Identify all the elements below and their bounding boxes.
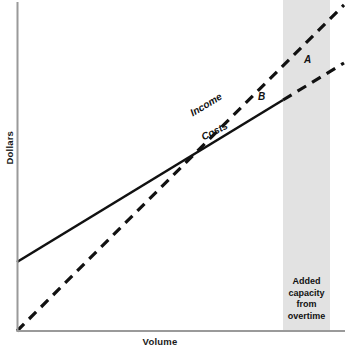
region-label-b: B bbox=[258, 91, 265, 102]
added-capacity-caption-line-2: capacity bbox=[283, 288, 330, 300]
added-capacity-caption-line-1: Added bbox=[283, 276, 330, 288]
added-capacity-caption: Added capacity from overtime bbox=[283, 276, 330, 322]
y-axis-title: Dollars bbox=[4, 147, 15, 165]
region-label-a: A bbox=[304, 54, 311, 65]
breakeven-chart: Dollars Volume Income Costs A B Added ca… bbox=[0, 0, 345, 347]
added-capacity-caption-line-4: overtime bbox=[283, 311, 330, 323]
x-axis-title: Volume bbox=[100, 336, 220, 347]
added-capacity-caption-line-3: from bbox=[283, 299, 330, 311]
costs-line-solid bbox=[17, 100, 283, 262]
